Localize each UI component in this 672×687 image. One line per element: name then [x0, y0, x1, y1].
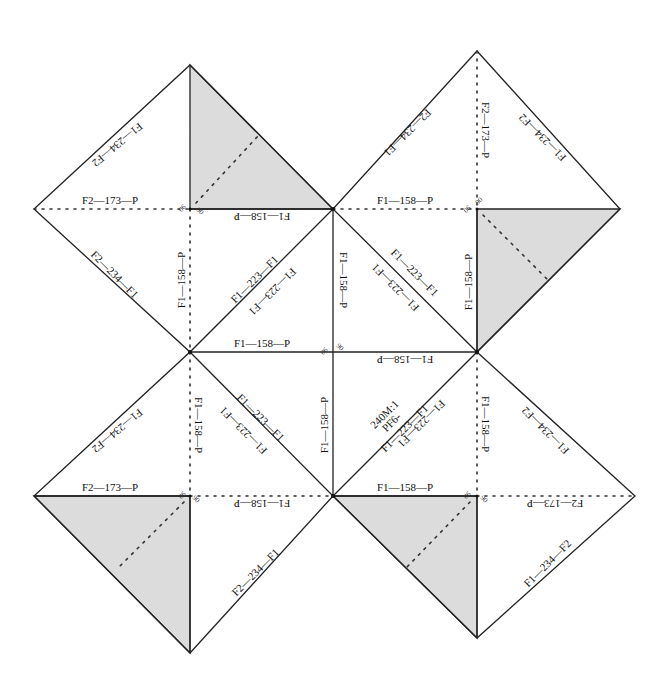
- label-tr-vertical: F2—173—P: [480, 102, 492, 158]
- label-tr-left-edge: F2—234—F1: [382, 107, 434, 159]
- label-center-horizontal-rot: F1—158—P: [377, 354, 433, 366]
- angle-label: 90: [474, 195, 485, 206]
- label-tr-horizontal: F1—158—P: [377, 194, 433, 206]
- label-br-horizontal: F1—158—P: [377, 481, 433, 493]
- label-br-vertical: F1—158—P: [480, 396, 492, 452]
- label-lower-vertical: F1—158—P: [318, 397, 330, 453]
- label-tl-bottom-rot: F1—158—P: [234, 211, 290, 223]
- label-tr-right-edge: F1—234—F2: [516, 112, 568, 164]
- label-center-vertical: F1—158—P: [338, 252, 350, 308]
- pf6-folding-net: F1—234—F2 F2—173—P F2—234—F1 F1—158—P F1…: [0, 0, 672, 687]
- vertex-dot: [475, 350, 479, 354]
- vertex-dot: [189, 495, 192, 498]
- label-bl-lower-right-edge: F2—234—F1: [229, 546, 281, 598]
- vertex-dot: [188, 350, 192, 354]
- label-tl-horizontal: F2—173—P: [82, 194, 138, 206]
- label-bl-horizontal: F2—173—P: [82, 481, 138, 493]
- label-tl-vertical: F1—158—P: [175, 252, 187, 308]
- vertex-dot: [331, 207, 335, 211]
- angle-label: 90: [318, 346, 329, 357]
- angle-label: 90: [176, 203, 187, 214]
- vertex-dot: [189, 208, 192, 211]
- vertex-dot: [476, 495, 479, 498]
- label-br-lower-right-edge: F1—234—F2: [521, 537, 573, 589]
- vertex-dot: [476, 208, 479, 211]
- label-center-horizontal: F1—158—P: [234, 337, 290, 349]
- label-tl-lower-left-edge: F2—234—F1: [89, 248, 141, 300]
- angle-label: 90: [335, 342, 346, 353]
- angle-label: 90: [461, 204, 472, 215]
- vertex-dot: [331, 494, 335, 498]
- label-tr-vertical-solid: F1—158—P: [462, 254, 474, 310]
- label-tl-upper-left-edge: F1—234—F2: [90, 121, 145, 170]
- label-bl-horizontal-rot: F1—158—P: [234, 498, 290, 510]
- label-br-horizontal-rot: F2—173—P: [527, 498, 583, 510]
- label-bl-vertical: F1—158—P: [193, 397, 205, 453]
- label-bl-upper-left-edge: F1—234—F2: [90, 407, 145, 456]
- angle-label: 90: [479, 494, 490, 505]
